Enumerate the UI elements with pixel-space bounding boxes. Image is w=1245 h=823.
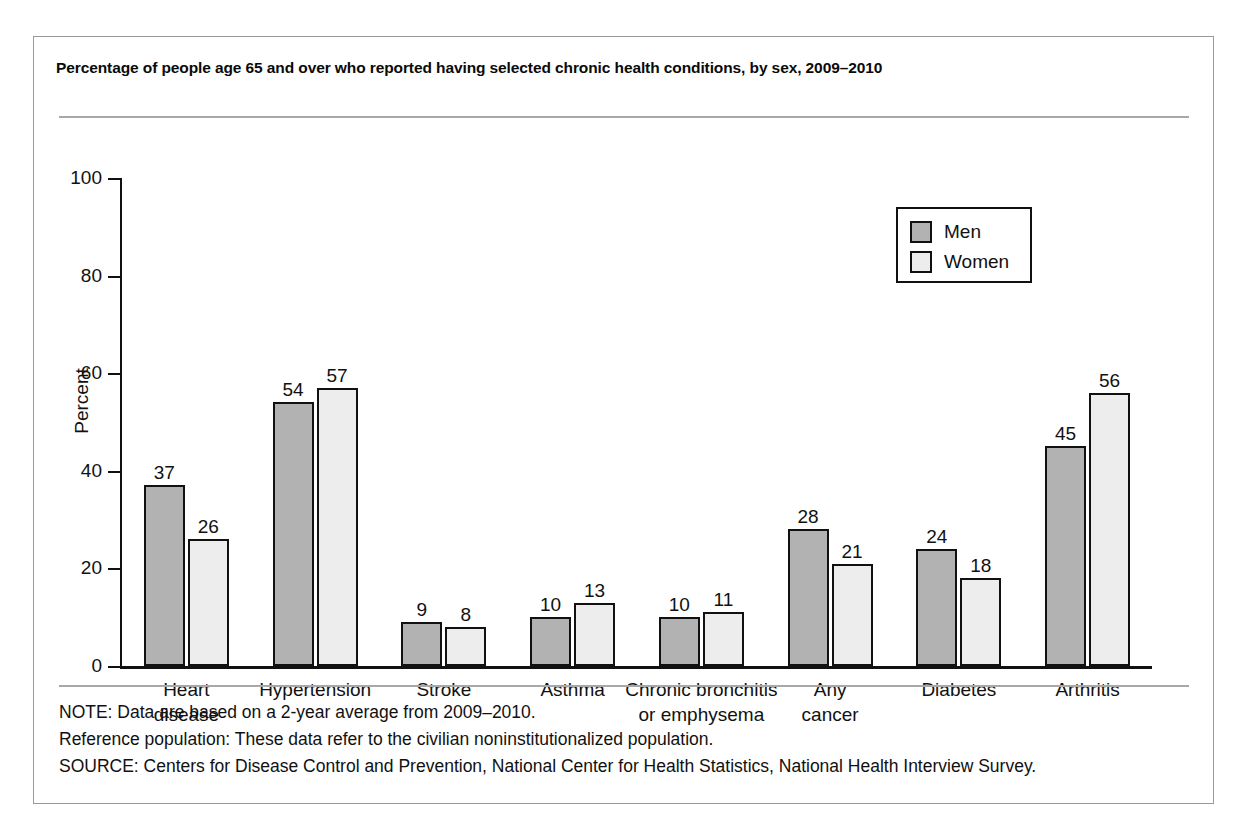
legend: Men Women [896,207,1032,283]
bar-value-label: 57 [327,365,348,387]
bar-value-label: 28 [798,506,819,528]
y-axis-tick [108,276,121,278]
bar-value-label: 56 [1099,370,1120,392]
bar-men: 54 [273,402,314,666]
bar-women: 26 [188,539,229,666]
bar-value-label: 21 [842,541,863,563]
legend-swatch-women-icon [910,251,932,273]
figure-page: Percentage of people age 65 and over who… [0,0,1245,823]
bar-men: 10 [659,617,700,666]
legend-label-women: Women [944,251,1009,273]
legend-item-men: Men [910,217,1030,247]
bar-value-label: 10 [669,594,690,616]
legend-item-women: Women [910,247,1030,277]
bar-value-label: 18 [970,555,991,577]
y-axis-tick-label: 0 [40,655,102,677]
bar-value-label: 9 [417,599,428,621]
bar-men: 24 [916,549,957,666]
bar-men: 28 [788,529,829,666]
chart-title: Percentage of people age 65 and over who… [56,59,1196,77]
bar-value-label: 54 [283,379,304,401]
bar-value-label: 24 [926,526,947,548]
bar-women: 57 [317,388,358,666]
bar-group: 1011 [659,178,744,666]
y-axis-title: Percent [71,341,93,461]
bar-group: 5457 [273,178,358,666]
bar-women: 18 [960,578,1001,666]
footer-divider [59,685,1189,687]
bar-women: 21 [832,564,873,666]
bar-group: 2821 [788,178,873,666]
title-divider [59,116,1189,118]
bar-group: 3726 [144,178,229,666]
y-axis-tick [108,178,121,180]
bar-women: 11 [703,612,744,666]
y-axis-tick-label: 60 [40,362,102,384]
bar-group: 1013 [530,178,615,666]
y-axis-tick [108,568,121,570]
legend-swatch-men-icon [910,221,932,243]
bar-men: 45 [1045,446,1086,666]
bar-group: 4556 [1045,178,1130,666]
footer-note: NOTE: Data are based on a 2-year average… [59,699,1199,726]
bar-group: 98 [401,178,486,666]
bar-women: 13 [574,603,615,666]
bar-value-label: 13 [584,580,605,602]
y-axis-tick-label: 40 [40,460,102,482]
plot-area: Percent 020406080100 3726545798101310112… [34,132,1213,692]
x-axis-line [120,666,1152,669]
footer-source: SOURCE: Centers for Disease Control and … [59,753,1199,780]
y-axis-tick [108,666,121,668]
bar-women: 8 [445,627,486,666]
bar-men: 10 [530,617,571,666]
bar-men: 37 [144,485,185,666]
y-axis-tick-label: 100 [40,167,102,189]
footer-notes: NOTE: Data are based on a 2-year average… [59,699,1199,780]
y-axis-tick-label: 20 [40,557,102,579]
bar-value-label: 10 [540,594,561,616]
legend-label-men: Men [944,221,981,243]
figure-frame: Percentage of people age 65 and over who… [33,36,1214,804]
y-axis-tick-label: 80 [40,265,102,287]
y-axis-tick [108,373,121,375]
bar-value-label: 8 [461,604,472,626]
bar-women: 56 [1089,393,1130,666]
bar-value-label: 45 [1055,423,1076,445]
bar-men: 9 [401,622,442,666]
bar-value-label: 37 [154,462,175,484]
y-axis-tick [108,471,121,473]
bar-value-label: 26 [198,516,219,538]
bar-value-label: 11 [714,589,734,611]
footer-reference: Reference population: These data refer t… [59,726,1199,753]
